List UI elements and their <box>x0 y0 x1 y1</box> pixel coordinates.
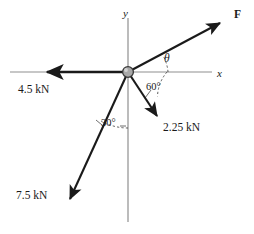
force-F-label: F <box>234 9 241 21</box>
sixty-degree-label: 60° <box>146 82 161 93</box>
force-vector-7p5kN <box>70 72 128 199</box>
force-4p5kN-label: 4.5 kN <box>18 84 49 96</box>
force-diagram: x y F 4.5 kN 2.25 kN 7.5 kN θ 60° 30° <box>0 0 254 234</box>
origin-highlight-icon <box>124 68 128 72</box>
force-7p5kN-label: 7.5 kN <box>16 190 47 202</box>
force-vector-F <box>128 23 220 72</box>
x-axis-label: x <box>217 68 222 79</box>
theta-angle-label: θ <box>164 53 170 65</box>
force-vector-2p25kN <box>128 72 157 116</box>
force-2p25kN-label: 2.25 kN <box>163 122 200 134</box>
thirty-degree-label: 30° <box>101 118 116 129</box>
origin-joint <box>123 67 134 78</box>
y-axis-label: y <box>123 8 128 19</box>
